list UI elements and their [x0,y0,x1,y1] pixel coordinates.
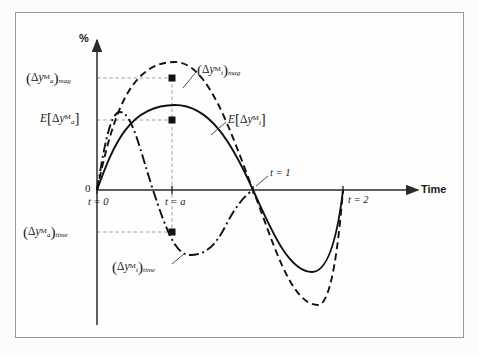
curve-label-mag-t: (ΔyMt)mag [197,62,240,78]
axis-lines [97,40,418,325]
curve-label-time-t: (ΔyMt)time [112,259,155,275]
x-tick-label-t0: t = 0 [88,197,109,208]
figure-canvas: % Time 0 t = 0 t = a t = 1 t = 2 (ΔyMa)m… [0,0,479,355]
marker-time-at-a [169,229,176,236]
leader-t1 [256,176,268,186]
marker-expected-at-a [169,117,176,124]
marker-mag-at-a [169,75,176,82]
y-label-expected-a: E[ΔyMa] [40,111,79,126]
guide-lines [97,78,172,232]
x-tick-label-ta: t = a [165,197,186,208]
x-axis-label: Time [421,184,446,195]
x-tick-label-t2: t = 2 [348,195,369,206]
curve-expected-solid [97,105,343,272]
y-label-time-a: (ΔyMa)time [23,224,68,240]
x-tick-label-t1: t = 1 [270,168,291,179]
y-label-mag-a: (ΔyMa)mag [26,70,71,86]
leader-time-t [172,253,185,264]
curve-label-expected-t: E[ΔyMt] [228,112,266,127]
chart-svg [0,0,479,355]
leader-mag-t [183,72,196,88]
y-axis-label: % [79,33,89,44]
origin-label: 0 [85,183,91,194]
